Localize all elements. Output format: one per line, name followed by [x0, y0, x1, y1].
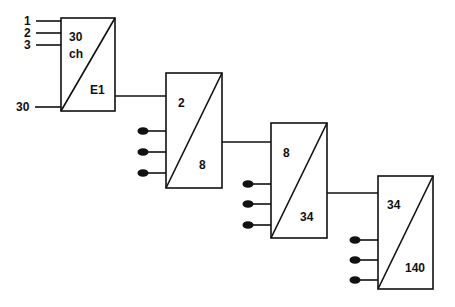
input-label-3: 3	[24, 38, 31, 52]
stage2-tributaries	[138, 127, 167, 177]
tributary-dot	[350, 236, 361, 244]
tributary-dot	[243, 180, 254, 188]
stage3-bottom-label: 34	[300, 210, 314, 224]
multiplexer-hierarchy-diagram: 1 2 3 30 30 ch E1 2 8	[0, 0, 455, 307]
stage3-block: 8 34	[243, 123, 328, 238]
tributary-dot	[138, 127, 149, 135]
tributary-dot	[243, 200, 254, 208]
input-label-30: 30	[16, 100, 30, 114]
stage4-top-label: 34	[387, 198, 401, 212]
stage2-bottom-label: 8	[199, 158, 206, 172]
tributary-dot	[138, 169, 149, 177]
tributary-dot	[350, 276, 361, 284]
stage1-bottom-label: E1	[90, 83, 105, 97]
stage1-block: 30 ch E1	[61, 18, 115, 111]
stage4-tributaries	[350, 236, 379, 284]
stage2-block: 2 8	[138, 73, 223, 188]
stage1-top-label: 30	[69, 30, 83, 44]
stage1-inputs: 1 2 3 30	[16, 14, 61, 114]
tributary-dot	[243, 221, 254, 229]
stage4-bottom-label: 140	[405, 261, 425, 275]
tributary-dot	[350, 256, 361, 264]
stage1-top-sublabel: ch	[69, 47, 83, 61]
stage3-tributaries	[243, 180, 272, 229]
tributary-dot	[138, 148, 149, 156]
stage3-top-label: 8	[283, 146, 290, 160]
stage2-top-label: 2	[178, 96, 185, 110]
